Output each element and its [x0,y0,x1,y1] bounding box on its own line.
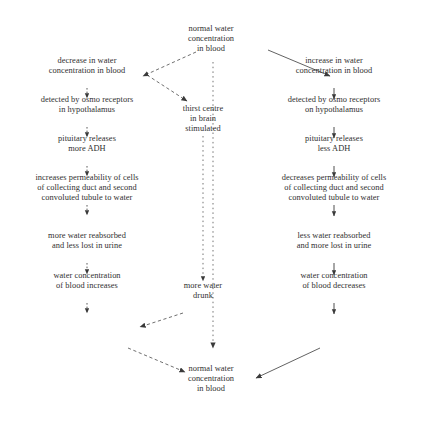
node-increase-in-water-concentration: increase in water concentration in blood [239,56,423,76]
node-decreases-permeability-of-cells: decreases permeability of cells of colle… [239,173,423,203]
osmoregulation-flowchart: normal water concentration in blood decr… [0,0,423,428]
node-more-water-reabsorbed: more water reabsorbed and less lost in u… [0,231,182,251]
node-decrease-in-water-concentration: decrease in water concentration in blood [0,56,182,76]
node-water-concentration-of-blood-decreases: water concentration of blood decreases [239,271,423,291]
node-pituitary-releases-more-adh: pituitary releases more ADH [0,134,182,154]
node-increases-permeability-of-cells: increases permeability of cells of colle… [0,173,182,203]
node-detected-by-osmo-receptors-on-hypothalamus: detected by osmo receptors on hypothalam… [239,95,423,115]
node-bottom-normal-water-concentration: normal water concentration in blood [141,364,281,394]
node-pituitary-releases-less-adh: pituitary releases less ADH [239,134,423,154]
connector-drunk-to-increases [140,313,183,327]
node-less-water-reabsorbed: less water reabsorbed and more lost in u… [239,231,423,251]
node-top-normal-water-concentration: normal water concentration in blood [141,24,281,54]
